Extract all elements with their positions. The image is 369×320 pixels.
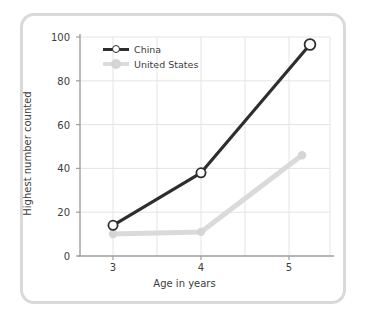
x-axis-title: Age in years bbox=[0, 278, 369, 289]
y-tick-label-20: 20 bbox=[44, 207, 70, 218]
x-tick-label-3: 3 bbox=[110, 262, 116, 273]
x-tick-label-4: 4 bbox=[198, 262, 204, 273]
data-point-united-states-age3 bbox=[109, 230, 117, 238]
legend-marker-united-states-icon bbox=[103, 58, 129, 70]
chart-legend: China United States bbox=[103, 42, 198, 72]
legend-marker-china-icon bbox=[103, 43, 129, 55]
x-tick-label-5: 5 bbox=[286, 262, 292, 273]
legend-item-united-states: United States bbox=[103, 57, 198, 71]
y-tick-label-80: 80 bbox=[44, 76, 70, 87]
data-point-china-age3 bbox=[108, 221, 117, 230]
legend-item-china: China bbox=[103, 42, 198, 56]
data-point-china-age4 bbox=[196, 168, 205, 177]
y-tick-label-60: 60 bbox=[44, 120, 70, 131]
legend-label-china: China bbox=[134, 44, 161, 55]
data-point-united-states-age4 bbox=[197, 228, 205, 236]
y-axis-title: Highest number counted bbox=[22, 84, 33, 224]
legend-label-united-states: United States bbox=[134, 59, 198, 70]
data-point-china-age5 bbox=[305, 39, 316, 50]
y-tick-label-40: 40 bbox=[44, 163, 70, 174]
data-point-united-states-age5 bbox=[298, 151, 306, 159]
y-tick-label-100: 100 bbox=[44, 32, 70, 43]
y-tick-label-0: 0 bbox=[44, 251, 70, 262]
